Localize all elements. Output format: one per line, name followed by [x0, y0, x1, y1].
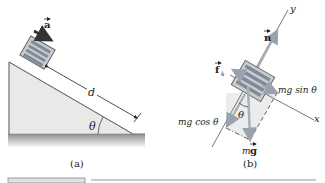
distance-label: d	[88, 86, 95, 99]
bottom-bar	[8, 178, 85, 183]
panel-b: y x n f k mg sin θ mg cos θ m g	[178, 3, 320, 169]
mg-cos-label: mg cos θ	[178, 117, 219, 127]
acceleration-label: a	[44, 19, 51, 30]
caption-a: (a)	[70, 158, 84, 169]
angle-label-b: θ	[238, 109, 244, 120]
mg-sin-label: mg sin θ	[278, 85, 317, 95]
panel-a: a d θ (a)	[8, 19, 145, 169]
y-axis-label: y	[289, 3, 296, 14]
friction-label: f	[215, 64, 220, 75]
ground	[8, 134, 145, 148]
normal-force-label: n	[264, 32, 272, 43]
angle-label-a: θ	[89, 120, 96, 133]
incline-diagram: a d θ (a) y x n	[0, 0, 325, 183]
caption-b: (b)	[243, 158, 257, 169]
weight-label-g: g	[250, 145, 257, 156]
friction-subscript: k	[221, 70, 225, 77]
x-axis-label: x	[314, 113, 320, 124]
